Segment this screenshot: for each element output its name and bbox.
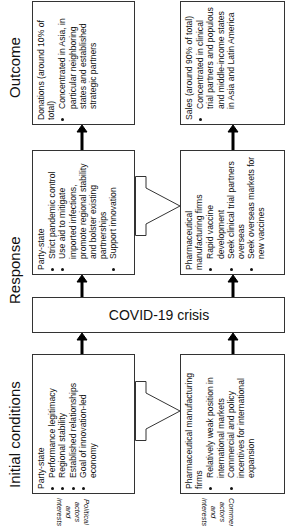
diagram-canvas: Initial conditions Response Outcome Poli…: [0, 0, 291, 526]
flow-arrows: [0, 0, 291, 526]
